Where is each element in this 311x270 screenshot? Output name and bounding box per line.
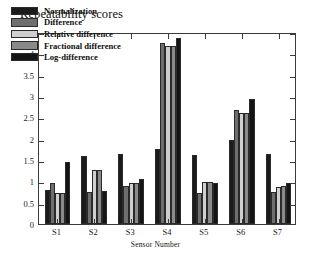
y-tick-mark <box>290 205 295 206</box>
y-tick-mark <box>290 162 295 163</box>
y-tick-mark <box>290 141 295 142</box>
y-tick-label: 3 <box>30 92 34 102</box>
y-tick-mark <box>290 119 295 120</box>
bar-group <box>155 34 181 224</box>
x-tick-mark <box>168 34 169 39</box>
x-tick-label: S7 <box>273 227 282 237</box>
legend-label: Log-difference <box>44 52 98 62</box>
y-tick-mark <box>39 119 44 120</box>
y-tick-mark <box>290 77 295 78</box>
y-tick-mark <box>290 98 295 99</box>
x-tick-mark <box>131 34 132 39</box>
x-tick-mark <box>279 219 280 224</box>
x-tick-mark <box>205 219 206 224</box>
legend-item: Relative difference <box>11 28 121 40</box>
x-tick-label: S5 <box>199 227 208 237</box>
legend-item: Difference <box>11 17 121 29</box>
bar <box>176 38 181 224</box>
legend-item: Log-difference <box>11 51 121 63</box>
bar-group <box>118 34 144 224</box>
bar <box>139 179 144 224</box>
y-tick-label: 2.5 <box>23 113 34 123</box>
x-tick-label: S6 <box>236 227 245 237</box>
bar <box>286 183 291 224</box>
y-tick-label: 1.5 <box>23 156 34 166</box>
legend-swatch <box>11 53 38 62</box>
x-tick-mark <box>57 219 58 224</box>
x-tick-label: S1 <box>52 227 61 237</box>
x-tick-mark <box>168 219 169 224</box>
y-tick-mark <box>39 77 44 78</box>
y-tick-label: 1 <box>30 177 34 187</box>
x-tick-mark <box>94 219 95 224</box>
y-tick-mark <box>39 141 44 142</box>
y-tick-mark <box>39 98 44 99</box>
x-axis-tick-labels: S1S2S3S4S5S6S7 <box>38 227 296 241</box>
y-tick-label: 0 <box>30 220 34 230</box>
legend-label: Relative difference <box>44 29 113 39</box>
legend-label: Difference <box>44 17 82 27</box>
legend-swatch <box>11 18 38 27</box>
x-tick-mark <box>242 219 243 224</box>
x-axis-title: Sensor Number <box>0 240 311 249</box>
legend-swatch <box>11 41 38 50</box>
legend-swatch <box>11 30 38 39</box>
y-tick-mark <box>290 55 295 56</box>
y-tick-label: 0.5 <box>23 199 34 209</box>
bar-group <box>229 34 255 224</box>
x-tick-mark <box>279 34 280 39</box>
bar <box>65 162 70 224</box>
bar <box>213 183 218 224</box>
x-tick-mark <box>242 34 243 39</box>
x-tick-label: S2 <box>89 227 98 237</box>
y-tick-mark <box>290 34 295 35</box>
bar-group <box>266 34 292 224</box>
y-tick-label: 3.5 <box>23 71 34 81</box>
bar <box>249 99 254 224</box>
legend-item: Normalization <box>11 5 121 17</box>
legend-swatch <box>11 7 38 16</box>
y-tick-mark <box>39 183 44 184</box>
legend-label: Normalization <box>44 6 97 16</box>
legend-item: Fractional difference <box>11 40 121 52</box>
legend: NormalizationDifferenceRelative differen… <box>11 5 121 63</box>
y-tick-mark <box>39 205 44 206</box>
x-tick-mark <box>131 219 132 224</box>
figure-container: Repeatability scores 00.511.522.533.544.… <box>0 0 311 270</box>
y-tick-mark <box>290 183 295 184</box>
x-tick-mark <box>205 34 206 39</box>
bar-group <box>192 34 218 224</box>
y-tick-label: 2 <box>30 135 34 145</box>
y-tick-mark <box>39 162 44 163</box>
legend-label: Fractional difference <box>44 41 121 51</box>
x-tick-label: S4 <box>163 227 172 237</box>
x-tick-label: S3 <box>126 227 135 237</box>
bar <box>102 191 107 224</box>
